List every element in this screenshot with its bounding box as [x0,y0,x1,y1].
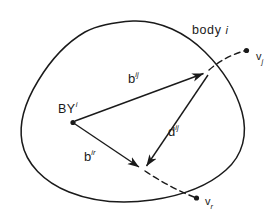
label-vj-subscript: j [262,57,264,66]
label-vector-dij: dij [168,123,179,139]
label-vector-bir: bir [84,148,96,164]
vector-bij-line [75,74,204,122]
label-vr-subscript: r [211,202,214,211]
label-body-index: i [226,24,229,36]
label-vector-bij: bij [128,70,139,86]
label-bij-superscript: ij [135,70,139,79]
body-outline-path [21,21,244,202]
label-origin-superscript: i [76,100,78,109]
node-vr-dot [194,195,199,200]
label-origin-text: BY [58,102,76,116]
label-body-text: body [192,23,222,37]
dashed-connector-vr [145,171,194,197]
label-body-i: bodyi [192,21,229,37]
label-node-vr: vr [205,192,213,208]
label-dij-superscript: ij [175,123,179,132]
label-bir-superscript: ir [91,148,96,157]
label-origin-frame: BYi [58,100,78,116]
label-node-vj: vj [256,47,263,63]
origin-point-dot [70,120,75,125]
diagram-svg [0,0,280,216]
dashed-connector-vj [209,51,244,70]
vector-dij-line [147,75,209,166]
node-vj-dot [244,48,249,53]
figure-canvas: bodyi BYi bij bir dij vj vr [0,0,280,216]
